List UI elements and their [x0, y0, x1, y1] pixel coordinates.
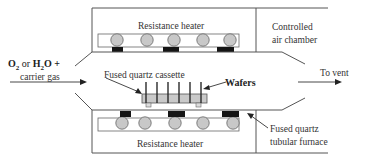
- top-roller: [168, 34, 180, 46]
- top-heater-label: Resistance heater: [138, 21, 205, 31]
- bottom-roller: [139, 117, 151, 129]
- bottom-heater-label: Resistance heater: [137, 139, 204, 149]
- cassette-body: [142, 94, 207, 103]
- vent-label: To vent: [320, 68, 349, 78]
- top-heating-block: [163, 47, 179, 52]
- bottom-heating-block: [168, 111, 185, 117]
- air-chamber-label-line1: Controlled: [272, 22, 313, 32]
- gas-in-label-line2: carrier gas: [20, 72, 60, 82]
- top-roller: [111, 34, 123, 46]
- bottom-roller: [116, 117, 128, 129]
- bottom-heating-block: [120, 111, 131, 117]
- arrow-right-icon: [80, 79, 87, 85]
- bottom-heating-block: [222, 111, 239, 117]
- furnace-label-line1: Fused quartz: [270, 124, 319, 134]
- bottom-roller: [227, 117, 239, 129]
- top-resistance-heater: [98, 34, 239, 52]
- furnace-pointer: [247, 113, 268, 128]
- quartz-cassette: [142, 82, 207, 107]
- top-roller: [141, 34, 153, 46]
- cassette-foot: [196, 103, 201, 107]
- cassette-pointer: [106, 78, 142, 94]
- tube-right-bottom-taper: [282, 98, 305, 110]
- bottom-roller: [169, 117, 181, 129]
- top-heating-block: [112, 47, 123, 52]
- bottom-roller: [197, 117, 209, 129]
- arrow-pointer-icon: [203, 85, 210, 90]
- furnace-label-line2: tubular furnace: [270, 137, 328, 147]
- air-chamber-label-line2: air chamber: [272, 35, 318, 45]
- arrow-right-icon: [335, 79, 342, 85]
- tube-left-bottom-taper: [75, 93, 92, 110]
- furnace-diagram: Resistance heater Resistance heater Cont…: [0, 0, 367, 165]
- arrow-pointer-icon: [247, 113, 254, 119]
- tube-right-top-taper: [282, 52, 305, 64]
- gas-in-label-line1: O2 or H2O +: [8, 58, 60, 72]
- top-heating-block: [217, 47, 234, 52]
- cassette-foot: [146, 103, 151, 107]
- cassette-label: Fused quartz cassette: [104, 70, 185, 80]
- bottom-resistance-heater: [98, 111, 239, 131]
- wafers-label: Wafers: [225, 77, 256, 88]
- wafers-pointer: [203, 82, 226, 90]
- vent-arrow: [298, 79, 342, 85]
- top-roller: [224, 34, 236, 46]
- top-roller: [197, 34, 209, 46]
- tube-left-top-taper: [75, 52, 92, 66]
